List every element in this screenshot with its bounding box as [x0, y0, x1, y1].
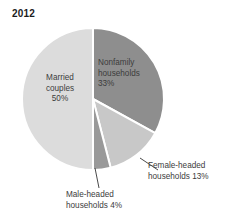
leader-line-male-headed [95, 168, 99, 188]
pie-chart-graphic [0, 0, 228, 221]
slice-label-married-couples: Married couples 50% [31, 73, 89, 105]
slice-label-male-headed-households: Male-headed households 4% [66, 190, 152, 211]
slice-label-female-headed-households: Female-headed households 13% [148, 161, 226, 182]
pie-chart-figure: 2012 Married couples 50% Nonfamily house… [0, 0, 228, 221]
slice-label-nonfamily-households: Nonfamily households 33% [98, 58, 158, 90]
